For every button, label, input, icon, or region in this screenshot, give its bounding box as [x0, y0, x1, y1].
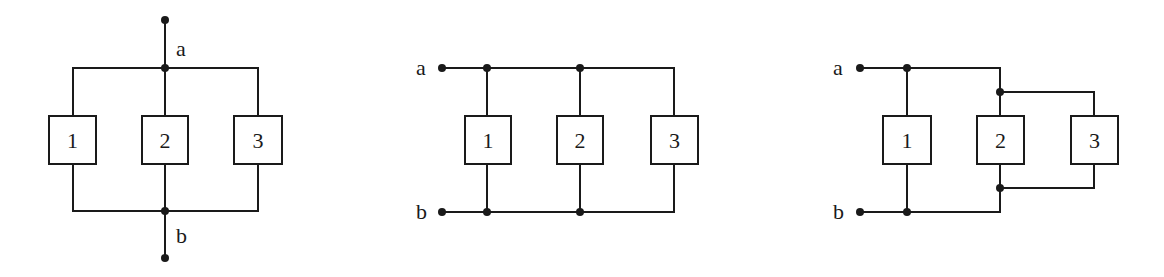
junction-node: [161, 64, 169, 72]
component-label: 3: [1089, 128, 1100, 153]
terminal-b-node: [438, 208, 446, 216]
component-3: 3: [651, 116, 698, 164]
terminal-b-label: b: [176, 223, 187, 248]
diagram-1: a b 1 2 3: [49, 16, 282, 262]
component-3: 3: [234, 116, 282, 164]
component-2: 2: [142, 116, 188, 164]
diagram-2: a b 1 2 3: [416, 55, 698, 224]
terminal-a-node: [856, 64, 864, 72]
terminal-a-label: a: [176, 36, 186, 61]
component-1: 1: [883, 116, 931, 164]
terminal-a-node: [438, 64, 446, 72]
component-label: 1: [483, 128, 494, 153]
component-2: 2: [557, 116, 603, 164]
terminal-b-label: b: [416, 199, 427, 224]
component-3: 3: [1071, 116, 1118, 164]
junction-node: [903, 64, 911, 72]
component-label: 2: [575, 128, 586, 153]
junction-node: [903, 208, 911, 216]
component-label: 3: [669, 128, 680, 153]
circuit-diagrams-figure: a b 1 2 3 a b: [0, 0, 1164, 277]
terminal-b-node: [161, 254, 169, 262]
junction-node: [996, 184, 1004, 192]
junction-node: [483, 208, 491, 216]
component-1: 1: [49, 116, 96, 164]
junction-node: [161, 207, 169, 215]
component-label: 1: [67, 128, 78, 153]
component-label: 3: [253, 128, 264, 153]
terminal-a-label: a: [416, 55, 426, 80]
component-1: 1: [465, 116, 511, 164]
junction-node: [576, 208, 584, 216]
component-label: 2: [995, 128, 1006, 153]
terminal-b-node: [856, 208, 864, 216]
terminal-a-label: a: [833, 55, 843, 80]
junction-node: [483, 64, 491, 72]
diagram-3: a b 1 2 3: [833, 55, 1118, 224]
junction-node: [996, 88, 1004, 96]
component-2: 2: [977, 116, 1024, 164]
component-label: 2: [160, 128, 171, 153]
junction-node: [576, 64, 584, 72]
component-label: 1: [902, 128, 913, 153]
terminal-a-node: [161, 16, 169, 24]
terminal-b-label: b: [833, 199, 844, 224]
